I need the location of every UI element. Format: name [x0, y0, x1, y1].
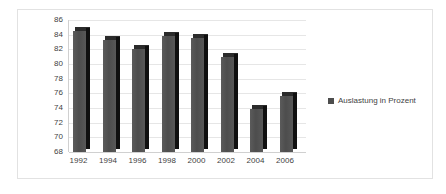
x-axis-tick-label: 2006 — [272, 156, 299, 166]
bar-series-auslastung-in-prozent — [69, 20, 306, 152]
plot-wrapper: 86848280787674727068 1992199419961998200… — [42, 20, 310, 168]
bar-column[interactable] — [103, 36, 116, 152]
bar-side-face — [86, 28, 90, 149]
bar-front-face — [162, 36, 175, 152]
chart-container: 86848280787674727068 1992199419961998200… — [17, 9, 433, 179]
x-axis: 19921994199619982000200220042006 — [68, 156, 306, 170]
axis-baseline — [69, 152, 306, 153]
bar-side-face — [204, 35, 208, 149]
plot-area — [68, 20, 306, 152]
bar-front-face — [221, 57, 234, 152]
legend-swatch-icon — [328, 98, 334, 104]
bar-column[interactable] — [250, 105, 263, 152]
bar-side-face — [175, 33, 179, 149]
y-axis: 86848280787674727068 — [42, 20, 66, 152]
y-axis-tick-label: 80 — [41, 60, 63, 68]
bar-column[interactable] — [132, 45, 145, 152]
x-axis-tick-label: 1994 — [95, 156, 122, 166]
bar-side-face — [116, 37, 120, 149]
x-axis-tick-label: 1998 — [154, 156, 181, 166]
bar-column[interactable] — [280, 92, 293, 152]
bar-side-face — [145, 46, 149, 149]
legend-item-label: Auslastung in Prozent — [338, 96, 416, 105]
y-axis-tick-label: 74 — [41, 104, 63, 112]
chart-legend: Auslastung in Prozent — [328, 96, 416, 105]
y-axis-tick-label: 70 — [41, 133, 63, 141]
x-axis-tick-label: 2004 — [242, 156, 269, 166]
x-axis-tick-label: 2002 — [213, 156, 240, 166]
bar-front-face — [103, 40, 116, 152]
bar-front-face — [132, 49, 145, 152]
bar-column[interactable] — [221, 53, 234, 152]
y-axis-tick-label: 76 — [41, 89, 63, 97]
x-axis-tick-label: 1992 — [65, 156, 92, 166]
y-axis-tick-label: 86 — [41, 16, 63, 24]
bar-side-face — [263, 106, 267, 149]
y-axis-tick-label: 82 — [41, 45, 63, 53]
y-axis-tick-label: 68 — [41, 148, 63, 156]
bar-column[interactable] — [73, 27, 86, 152]
bar-column[interactable] — [162, 32, 175, 152]
y-axis-tick-label: 72 — [41, 119, 63, 127]
y-axis-tick-label: 84 — [41, 31, 63, 39]
bar-column[interactable] — [191, 34, 204, 152]
y-axis-tick-label: 78 — [41, 75, 63, 83]
bar-side-face — [234, 54, 238, 149]
bar-front-face — [280, 96, 293, 152]
bar-front-face — [73, 31, 86, 152]
x-axis-tick-label: 2000 — [183, 156, 210, 166]
bar-side-face — [293, 93, 297, 149]
bar-front-face — [250, 109, 263, 152]
x-axis-tick-label: 1996 — [124, 156, 151, 166]
bar-front-face — [191, 38, 204, 152]
